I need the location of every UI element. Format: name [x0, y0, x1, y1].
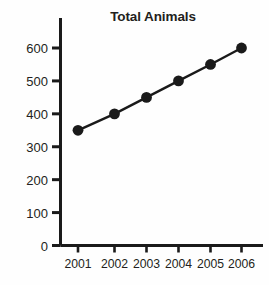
data-point-marker: [109, 108, 120, 119]
data-point-marker: [141, 92, 152, 103]
y-axis-tick-label: 200: [26, 172, 48, 187]
x-axis-tick-label: 2005: [197, 257, 224, 271]
y-axis-tick-label: 400: [26, 106, 48, 121]
data-line-series-total-animals: [78, 48, 242, 130]
data-point-marker: [205, 59, 216, 70]
x-axis-tick-label: 2003: [133, 257, 160, 271]
y-axis-tick-label: 100: [26, 205, 48, 220]
x-axis-tick-label: 2001: [64, 257, 91, 271]
x-axis-tick-label: 2002: [101, 257, 128, 271]
data-point-marker: [73, 125, 84, 136]
data-point-marker: [236, 43, 247, 54]
y-axis-tick-label: 0: [41, 238, 48, 253]
x-axis-tick-label: 2004: [165, 257, 192, 271]
y-axis-tick-label: 300: [26, 139, 48, 154]
y-axis-tick-label: 600: [26, 41, 48, 56]
y-axis-tick-label: 500: [26, 73, 48, 88]
x-axis-tick-label: 2006: [228, 257, 255, 271]
data-point-marker: [173, 76, 184, 87]
chart-container: Total Animals 0100200300400500600 200120…: [0, 0, 269, 285]
